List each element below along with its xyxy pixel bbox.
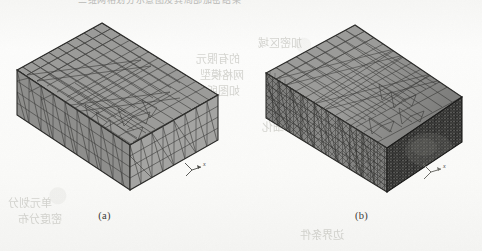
figure-b-caption: (b): [241, 210, 482, 221]
figure-b-panel: x (b): [241, 0, 482, 251]
figure-a-panel: x (a): [0, 0, 241, 251]
figure-a-axis-marker: x: [185, 161, 206, 176]
figure-a-caption: (a): [0, 210, 225, 221]
figure-a-axis-label-x: x: [202, 161, 206, 167]
figure-page: 三维网格划分示意图及其局部加密结果 的有限元网格模型如图所示单元划分密度分布加密…: [0, 0, 482, 251]
figure-b-axis-label-x: x: [442, 163, 446, 169]
